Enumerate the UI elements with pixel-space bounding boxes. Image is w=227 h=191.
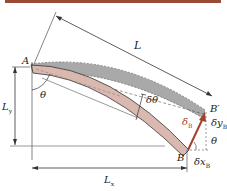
- label-dyb: δyB: [211, 118, 227, 130]
- label-dtheta: δθ: [146, 95, 158, 105]
- label-dxb: δxB: [194, 157, 210, 169]
- arrowhead-icon: [13, 139, 17, 145]
- arrowhead-icon: [32, 166, 38, 170]
- label-l: L: [134, 40, 141, 51]
- label-b-prime: B′: [210, 104, 220, 114]
- arrowhead-icon: [13, 67, 17, 73]
- label-b: B: [177, 153, 184, 163]
- label-ly: Ly: [2, 102, 12, 114]
- arrowhead-icon: [56, 16, 62, 21]
- arrowhead-icon: [181, 166, 187, 170]
- theta-arc: [32, 74, 50, 90]
- label-a: A: [22, 56, 29, 66]
- label-lx: Lx: [104, 175, 114, 187]
- label-delta-b: δB: [182, 117, 192, 129]
- label-theta-b: θ: [211, 136, 217, 146]
- extension-line: [34, 12, 56, 64]
- label-theta-a: θ: [40, 90, 46, 100]
- arrowhead-icon: [206, 91, 212, 96]
- beam-diagram: [0, 0, 227, 191]
